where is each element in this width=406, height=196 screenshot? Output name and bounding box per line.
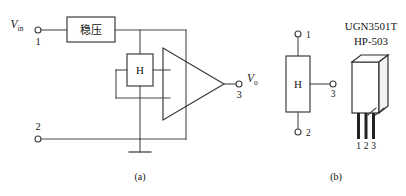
regulator-label: 稳压 bbox=[80, 23, 102, 37]
b-terminal-2-node[interactable] bbox=[295, 129, 301, 135]
package-front-face bbox=[352, 62, 379, 113]
figure-root: Vin 1 稳压 H bbox=[0, 0, 406, 196]
b-terminal-1-node[interactable] bbox=[295, 31, 301, 37]
package-pin-3-number: 3 bbox=[371, 141, 376, 151]
package-pin-3 bbox=[372, 113, 375, 139]
b-hall-symbol-label: H bbox=[294, 78, 302, 90]
vin-label: Vin bbox=[11, 18, 24, 33]
part-number-line-2: HP-503 bbox=[354, 35, 389, 47]
package-pin-1 bbox=[357, 113, 360, 139]
differential-amplifier-block bbox=[163, 48, 224, 120]
vout-label: Vo bbox=[247, 72, 258, 87]
b-terminal-3-number: 3 bbox=[331, 89, 336, 99]
panel-a: Vin 1 稳压 H bbox=[11, 17, 258, 183]
b-terminal-2-number: 2 bbox=[306, 128, 311, 138]
package-pin-2-number: 2 bbox=[364, 141, 369, 151]
terminal-2-number: 2 bbox=[35, 121, 40, 132]
panel-b: 1 H 3 2 UGN3501T HP-503 bbox=[286, 20, 398, 183]
terminal-3-number: 3 bbox=[236, 89, 241, 100]
b-terminal-1-number: 1 bbox=[306, 30, 311, 40]
b-terminal-3-node[interactable] bbox=[330, 81, 336, 87]
package-pin-2 bbox=[365, 113, 368, 139]
hall-element-label: H bbox=[136, 64, 144, 76]
terminal-2-node[interactable] bbox=[35, 136, 41, 142]
terminal-3-node[interactable] bbox=[236, 81, 242, 87]
terminal-1-node[interactable] bbox=[35, 27, 41, 33]
caption-b: (b) bbox=[330, 171, 342, 183]
package-pin-1-number: 1 bbox=[356, 141, 361, 151]
caption-a: (a) bbox=[134, 171, 145, 183]
circuit-diagram-svg: Vin 1 稳压 H bbox=[0, 0, 406, 196]
part-number-line-1: UGN3501T bbox=[345, 20, 398, 32]
terminal-1-number: 1 bbox=[35, 36, 40, 47]
package-side-face bbox=[379, 55, 388, 113]
